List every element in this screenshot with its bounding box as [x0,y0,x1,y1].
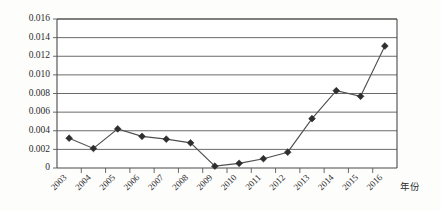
x-tick-label: 2003 [49,172,69,192]
x-tick-label: 2006 [122,172,142,192]
x-tick-marks [81,168,372,173]
y-tick-label-7: 0.002 [29,144,51,154]
x-tick-label: 2005 [97,172,117,192]
x-tick-label: 2013 [292,172,312,192]
x-axis-title: 年份 [400,181,420,192]
y-tick-label-1: 0.014 [29,32,51,42]
y-tick-label-4: 0.008 [29,88,51,98]
line-chart: 0.016 0.014 0.012 0.010 0.008 0.006 0.00… [0,0,441,211]
x-tick-label: 2008 [170,172,190,192]
x-tick-label: 2004 [73,172,93,192]
y-tick-label-2: 0.012 [29,50,51,60]
y-tick-label-8: 0 [45,162,50,172]
y-tick-labels: 0.016 0.014 0.012 0.010 0.008 0.006 0.00… [29,13,51,172]
y-tick-label-6: 0.004 [29,125,51,135]
x-tick-label: 2011 [243,172,263,192]
x-tick-label: 2015 [340,172,360,192]
x-tick-label: 2014 [316,172,336,192]
chart-canvas: 0.016 0.014 0.012 0.010 0.008 0.006 0.00… [0,0,441,211]
y-tick-label-5: 0.006 [29,106,51,116]
y-tick-marks [53,19,57,168]
x-tick-label: 2016 [364,172,384,192]
x-tick-label: 2009 [194,172,214,192]
x-tick-labels: 2003200420052006200720082009201020112012… [49,172,385,192]
x-tick-label: 2010 [219,172,239,192]
x-tick-label: 2007 [146,172,166,192]
y-tick-label-3: 0.010 [29,69,51,79]
y-tick-label-0: 0.016 [29,13,51,23]
x-tick-label: 2012 [267,172,287,192]
